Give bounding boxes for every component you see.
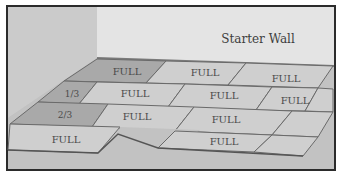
tile-label: FULL [191, 67, 220, 78]
tile-label: FULL [113, 66, 142, 77]
tile-label: FULL [281, 95, 310, 106]
tile-label: 2/3 [58, 110, 73, 120]
tile-label: FULL [52, 134, 81, 145]
tile-label: FULL [272, 73, 301, 84]
tile-label: FULL [121, 88, 150, 99]
tile-layout-diagram: Starter Wall FULL FULL FULL 1/3 FULL FUL… [0, 0, 345, 179]
tile-label: FULL [123, 111, 152, 122]
back-wall [97, 7, 334, 66]
starter-wall-label: Starter Wall [221, 32, 295, 46]
tile-label: FULL [210, 136, 239, 147]
tile-label: FULL [212, 114, 241, 125]
tile-label: 1/3 [65, 89, 80, 99]
tile-label: FULL [210, 90, 239, 101]
